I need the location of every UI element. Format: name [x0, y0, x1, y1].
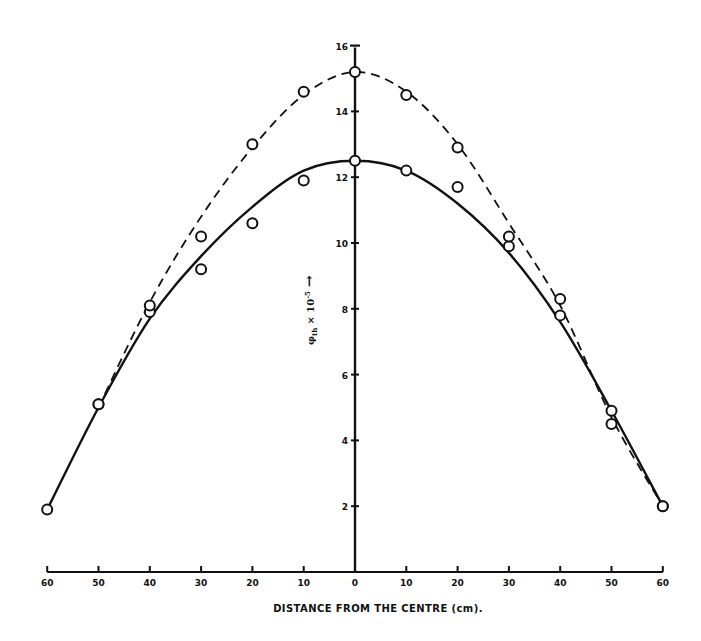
- x-tick-label: 30: [195, 578, 208, 588]
- data-point-marker: [247, 139, 257, 149]
- data-point-marker: [350, 156, 360, 166]
- data-point-marker: [453, 143, 463, 153]
- x-tick-label: 60: [657, 578, 670, 588]
- y-tick-label: 14: [335, 107, 348, 117]
- data-point-marker: [42, 504, 52, 514]
- data-point-marker: [607, 419, 617, 429]
- dashed-curve: [99, 72, 663, 506]
- x-tick-label: 50: [605, 578, 618, 588]
- x-tick-label: 10: [400, 578, 413, 588]
- y-label-times: × 10: [305, 299, 316, 325]
- data-point-marker: [247, 218, 257, 228]
- y-axis-title: φth× 10-5→: [301, 275, 319, 345]
- data-point-marker: [299, 175, 309, 185]
- data-point-marker: [350, 67, 360, 77]
- y-label-exponent: -5: [303, 291, 312, 299]
- x-tick-label: 20: [451, 578, 464, 588]
- data-point-marker: [401, 166, 411, 176]
- data-point-marker: [94, 399, 104, 409]
- arrow-up-icon: →: [301, 275, 317, 287]
- data-point-marker: [196, 264, 206, 274]
- y-label-symbol: φ: [305, 336, 316, 345]
- y-tick-label: 12: [335, 173, 348, 183]
- data-point-marker: [504, 231, 514, 241]
- y-tick-label: 16: [335, 42, 348, 52]
- data-point-marker: [555, 294, 565, 304]
- data-point-marker: [196, 231, 206, 241]
- chart: 6050403020100102030405060 246810121416 D…: [0, 0, 701, 641]
- data-point-marker: [658, 501, 668, 511]
- data-point-marker: [401, 90, 411, 100]
- y-tick-label: 2: [342, 502, 348, 512]
- x-tick-label: 30: [503, 578, 516, 588]
- data-point-marker: [453, 182, 463, 192]
- y-tick-label: 4: [342, 436, 348, 446]
- y-label-subscript: th: [310, 328, 319, 336]
- data-point-marker: [607, 406, 617, 416]
- y-axis: 246810121416: [335, 42, 360, 572]
- x-tick-label: 20: [246, 578, 259, 588]
- svg-text:φth× 10-5→: φth× 10-5→: [301, 275, 319, 345]
- x-tick-label: 0: [352, 578, 358, 588]
- data-point-marker: [504, 241, 514, 251]
- y-tick-label: 6: [342, 371, 348, 381]
- data-point-marker: [299, 87, 309, 97]
- x-axis-title: DISTANCE FROM THE CENTRE (cm).: [273, 603, 483, 614]
- x-tick-label: 40: [554, 578, 567, 588]
- data-point-marker: [145, 301, 155, 311]
- x-tick-label: 50: [92, 578, 105, 588]
- y-tick-label: 8: [342, 305, 348, 315]
- x-tick-label: 60: [41, 578, 54, 588]
- x-tick-label: 10: [297, 578, 310, 588]
- x-tick-label: 40: [144, 578, 157, 588]
- data-point-marker: [555, 310, 565, 320]
- y-tick-label: 10: [335, 239, 348, 249]
